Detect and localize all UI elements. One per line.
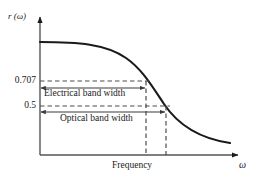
- x-axis-caption: Frequency: [112, 161, 152, 171]
- plot-canvas: [0, 0, 258, 179]
- x-axis-title: ω: [239, 160, 246, 170]
- y-tick-label-0707: 0.707: [0, 76, 36, 86]
- y-axis-title: r (ω): [8, 12, 26, 21]
- figure-container: r (ω) 0.707 0.5 Electrical band width Op…: [0, 0, 258, 179]
- y-tick-label-05: 0.5: [0, 101, 36, 111]
- optical-band-width-label: Optical band width: [60, 114, 133, 124]
- electrical-band-width-label: Electrical band width: [44, 89, 125, 99]
